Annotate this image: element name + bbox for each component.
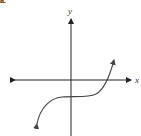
cubic-graph: y x: [0, 0, 141, 136]
cubic-curve: [37, 60, 114, 124]
x-axis-label: x: [134, 75, 139, 85]
y-axis-label: y: [67, 6, 72, 16]
